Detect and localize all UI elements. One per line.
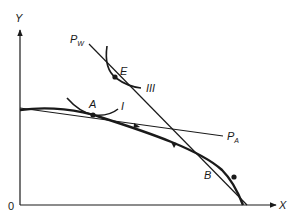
origin-label: 0 xyxy=(8,200,14,212)
indifference-high-label: III xyxy=(146,82,155,94)
point-a-label: A xyxy=(88,98,96,110)
x-axis-label: X xyxy=(278,199,287,211)
autarky-price-label: PA xyxy=(227,130,239,144)
autarky-price-line xyxy=(20,108,223,136)
world-price-label: PW xyxy=(70,33,85,47)
point-a xyxy=(90,112,95,117)
indifference-low-label: I xyxy=(121,100,124,112)
point-e xyxy=(112,74,117,79)
point-e-label: E xyxy=(120,65,128,77)
world-price-line xyxy=(89,44,247,205)
ppf-diagram: Y X 0 PW PA III I A E B xyxy=(0,0,293,221)
y-axis-label: Y xyxy=(15,12,23,24)
point-b-label: B xyxy=(204,169,211,181)
point-b xyxy=(231,174,236,179)
